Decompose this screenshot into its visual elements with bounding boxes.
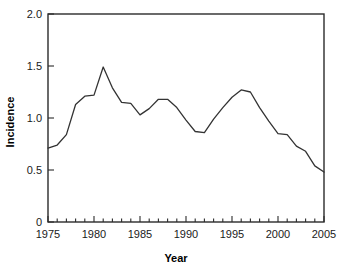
plot-border xyxy=(48,14,324,222)
y-tick-label: 1.0 xyxy=(27,112,42,124)
x-axis-tick-labels: 1975198019851990199520002005 xyxy=(36,228,336,240)
y-tick-label: 1.5 xyxy=(27,60,42,72)
x-axis-title: Year xyxy=(164,252,188,264)
x-tick-label: 1975 xyxy=(36,228,60,240)
y-tick-label: 2.0 xyxy=(27,8,42,20)
incidence-line xyxy=(48,67,324,172)
x-tick-label: 1980 xyxy=(82,228,106,240)
x-tick-label: 1990 xyxy=(174,228,198,240)
tick-marks xyxy=(48,14,324,222)
y-tick-label: 0 xyxy=(36,216,42,228)
chart-canvas: 1975198019851990199520002005 00.51.01.52… xyxy=(0,0,345,269)
y-tick-label: 0.5 xyxy=(27,164,42,176)
axes xyxy=(48,14,324,222)
incidence-line-chart: 1975198019851990199520002005 00.51.01.52… xyxy=(0,0,345,269)
x-tick-label: 1985 xyxy=(128,228,152,240)
x-tick-label: 2005 xyxy=(312,228,336,240)
data-series-incidence xyxy=(48,67,324,172)
x-tick-label: 1995 xyxy=(220,228,244,240)
x-tick-label: 2000 xyxy=(266,228,290,240)
y-axis-tick-labels: 00.51.01.52.0 xyxy=(27,8,42,228)
y-axis-title: Incidence xyxy=(4,97,16,148)
